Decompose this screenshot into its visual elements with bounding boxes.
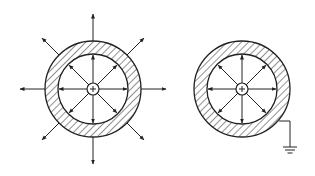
ungrounded-shell-panel	[20, 14, 166, 164]
central-charge	[87, 83, 99, 95]
central-charge	[236, 83, 248, 95]
ground-icon	[279, 121, 297, 153]
diagram-canvas	[0, 0, 315, 176]
grounded-shell-panel	[194, 41, 297, 153]
